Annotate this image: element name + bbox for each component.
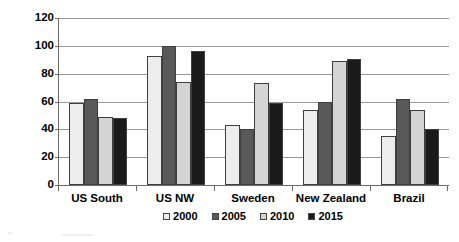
bar <box>425 129 440 185</box>
legend-label: 2010 <box>270 211 294 222</box>
bar <box>191 51 206 185</box>
bar-group <box>137 18 215 185</box>
legend: 2000200520102015 <box>58 209 448 223</box>
y-axis-tick-labels: 120100806040200 <box>20 0 54 242</box>
bar <box>84 99 99 185</box>
bar <box>381 136 396 185</box>
legend-label: 2005 <box>222 211 246 222</box>
plot-area <box>58 18 448 185</box>
legend-swatch-icon <box>308 213 315 220</box>
bar <box>69 103 84 185</box>
legend-item-2005[interactable]: 2005 <box>212 211 246 222</box>
bar-group <box>293 18 371 185</box>
y-tick-label-0: 0 <box>22 179 54 190</box>
y-tick-label-40: 40 <box>22 123 54 134</box>
bar <box>318 102 333 185</box>
bar <box>410 110 425 185</box>
legend-swatch-icon <box>163 213 170 220</box>
scan-artifact <box>8 232 12 234</box>
y-tick-label-20: 20 <box>22 151 54 162</box>
bar <box>147 56 162 185</box>
legend-swatch-icon <box>212 213 219 220</box>
bar <box>176 82 191 185</box>
bar <box>113 118 128 185</box>
bar <box>240 129 255 185</box>
bar <box>396 99 411 185</box>
bar <box>162 46 177 185</box>
bar <box>303 110 318 185</box>
category-label-sweden: Sweden <box>214 191 292 205</box>
y-tick-label-80: 80 <box>22 68 54 79</box>
category-label-us-nw: US NW <box>136 191 214 205</box>
bar <box>269 103 284 185</box>
bar <box>347 59 362 185</box>
y-tick-label-120: 120 <box>22 12 54 23</box>
bar-group <box>59 18 137 185</box>
legend-label: 2000 <box>173 211 197 222</box>
bar <box>98 117 113 185</box>
legend-swatch-icon <box>260 213 267 220</box>
legend-item-2015[interactable]: 2015 <box>308 211 342 222</box>
y-tick-label-60: 60 <box>22 96 54 107</box>
category-label-new-zealand: New Zealand <box>292 191 370 205</box>
bar-group <box>371 18 449 185</box>
legend-item-2000[interactable]: 2000 <box>163 211 197 222</box>
bar-group <box>215 18 293 185</box>
category-axis-labels: US SouthUS NWSwedenNew ZealandBrazil <box>58 191 448 207</box>
legend-item-2010[interactable]: 2010 <box>260 211 294 222</box>
legend-label: 2015 <box>318 211 342 222</box>
bar-chart: US dollar per cubic meter 12010080604020… <box>0 0 459 242</box>
category-label-brazil: Brazil <box>370 191 448 205</box>
bar <box>225 125 240 185</box>
scan-artifact <box>62 234 92 236</box>
category-label-us-south: US South <box>58 191 136 205</box>
bar <box>332 61 347 185</box>
bar <box>254 83 269 185</box>
y-tick-label-100: 100 <box>22 40 54 51</box>
bars-layer <box>59 18 449 185</box>
